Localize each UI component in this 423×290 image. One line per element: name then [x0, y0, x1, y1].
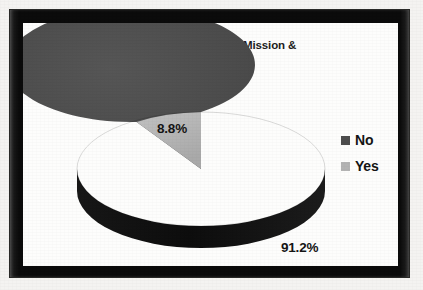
- pie-slice-no-side: [77, 169, 325, 248]
- picture-frame-border: Percentage of Families with a Mission & …: [9, 9, 410, 278]
- data-label-no: 91.2%: [281, 240, 318, 255]
- data-label-yes: 8.8%: [157, 121, 187, 136]
- legend-item-yes[interactable]: Yes: [341, 153, 399, 179]
- legend-label-yes: Yes: [355, 159, 379, 173]
- legend-swatch-yes-icon: [341, 162, 350, 171]
- legend-label-no: No: [355, 133, 373, 147]
- chart-plate: Percentage of Families with a Mission & …: [23, 23, 398, 266]
- chart-legend: No Yes: [341, 127, 399, 179]
- legend-item-no[interactable]: No: [341, 127, 399, 153]
- pie-slice-no-top: [23, 23, 255, 169]
- scanned-page: Percentage of Families with a Mission & …: [0, 0, 423, 290]
- legend-swatch-no-icon: [341, 136, 350, 145]
